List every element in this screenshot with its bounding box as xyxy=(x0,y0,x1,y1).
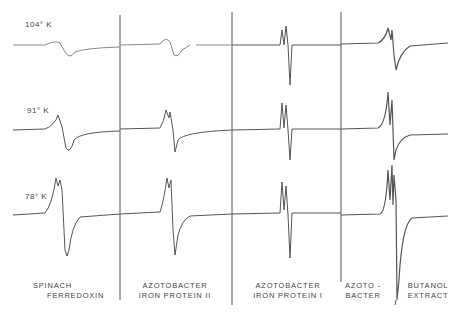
trace-spinach-104K xyxy=(13,42,120,56)
panel-label-line: EXTRACT xyxy=(400,291,456,301)
panel-label-line: AZOTO - xyxy=(338,281,388,291)
trace-azotobacter-104K xyxy=(341,28,448,70)
trace-spinach-91K xyxy=(13,115,120,150)
trace-iron-protein-II-91K xyxy=(120,110,232,152)
panel-label-line: BACTER xyxy=(338,291,388,301)
trace-iron-protein-I-104K xyxy=(232,26,341,85)
panel-label-azotobacter: AZOTO - BACTER xyxy=(338,281,388,301)
panel-label-butanol-extract: BUTANOL EXTRACT xyxy=(400,281,456,301)
temperature-label-78K: 78° K xyxy=(25,192,47,201)
panel-label-iron-protein-I: AZOTOBACTER IRON PROTEIN I xyxy=(238,281,338,301)
panel-label-line: SPINACH xyxy=(25,281,115,291)
trace-iron-protein-II-104K xyxy=(120,39,232,55)
trace-spinach-78K xyxy=(13,178,120,256)
panel-label-iron-protein-II: AZOTOBACTER IRON PROTEIN II xyxy=(125,281,225,301)
panel-divider-slanted xyxy=(395,300,396,305)
trace-azotobacter-91K xyxy=(341,92,448,160)
trace-iron-protein-I-91K xyxy=(232,103,341,160)
trace-azotobacter-78K xyxy=(341,165,448,300)
temperature-label-91K: 91° K xyxy=(27,106,49,115)
trace-iron-protein-I-78K xyxy=(232,182,341,258)
temperature-label-104K: 104° K xyxy=(25,20,52,29)
panel-label-line: AZOTOBACTER xyxy=(125,281,225,291)
epr-spectra-figure xyxy=(0,0,458,314)
panel-label-line: AZOTOBACTER xyxy=(238,281,338,291)
panel-label-line: IRON PROTEIN II xyxy=(125,291,225,301)
panel-label-spinach-ferredoxin: SPINACH FERREDOXIN xyxy=(25,281,115,301)
panel-label-line: BUTANOL xyxy=(400,281,456,291)
panel-label-line: IRON PROTEIN I xyxy=(238,291,338,301)
panel-label-line: FERREDOXIN xyxy=(25,291,115,301)
trace-iron-protein-II-78K xyxy=(120,178,232,255)
